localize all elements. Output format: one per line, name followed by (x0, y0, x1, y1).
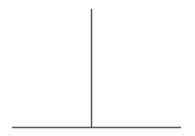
diagram-canvas (0, 0, 195, 136)
inverted-t-diagram (0, 0, 195, 136)
